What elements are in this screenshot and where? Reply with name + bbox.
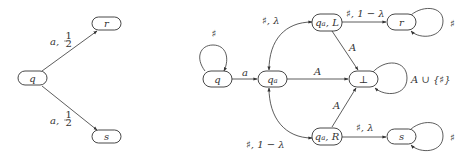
svg-text:a,: a,: [50, 115, 59, 126]
loop-label-s: ♯: [450, 132, 455, 143]
automaton-diagram: a, 1 2 a, 1 2 q r s ♯: [0, 0, 471, 161]
svg-text:qa, R: qa, R: [315, 131, 340, 143]
svg-text:q: q: [214, 74, 220, 85]
state-qa-L: qa, L: [312, 14, 342, 31]
state-r-right: r: [387, 14, 416, 30]
svg-text:q: q: [29, 73, 35, 84]
loop-label-r: ♯: [450, 18, 455, 29]
edge-label-q-s: a, 1 2: [50, 109, 72, 128]
edge-label-qa-qaR: ♯, 1 − λ: [246, 139, 285, 150]
loop-q: [200, 45, 227, 71]
edge-label-q-qa: a: [242, 67, 248, 78]
left-diagram: a, 1 2 a, 1 2 q r s: [18, 17, 121, 143]
svg-text:qa, L: qa, L: [315, 17, 339, 29]
state-qa-R: qa, R: [312, 128, 342, 145]
state-qa: qa: [258, 71, 287, 87]
state-bottom: ⊥: [349, 71, 378, 87]
svg-text:a,: a,: [50, 36, 59, 47]
edge-qa-qaL: [269, 22, 312, 70]
edge-qa-qaR: [269, 88, 312, 138]
svg-text:s: s: [399, 131, 404, 142]
svg-text:2: 2: [66, 38, 72, 49]
right-diagram: ♯ a ♯, λ ♯, 1 − λ A ♯, 1 − λ A A ♯, λ ♯ …: [200, 8, 455, 151]
edge-label-q-r: a, 1 2: [50, 30, 72, 49]
state-s-right: s: [387, 129, 416, 144]
edge-label-qaL-bottom: A: [348, 42, 356, 53]
state-q-left: q: [18, 71, 47, 85]
loop-label-q: ♯: [212, 28, 217, 39]
svg-text:2: 2: [66, 117, 72, 128]
edge-label-qaL-r: ♯, 1 − λ: [346, 8, 385, 19]
edge-label-qaR-s: ♯, λ: [356, 122, 374, 133]
state-q-right: q: [203, 71, 232, 87]
svg-text:s: s: [104, 131, 109, 142]
svg-text:⊥: ⊥: [359, 74, 368, 85]
edge-label-qa-qaL: ♯, λ: [262, 15, 280, 26]
state-s-left: s: [92, 130, 121, 143]
edge-label-qaR-bottom: A: [332, 100, 340, 111]
state-r-left: r: [92, 17, 121, 30]
loop-label-bottom: A ∪ {♯}: [410, 74, 451, 85]
edge-label-qa-bottom: A: [313, 66, 321, 77]
